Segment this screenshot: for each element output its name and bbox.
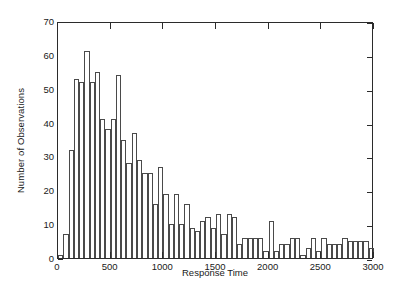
x-tick-mark-top: [373, 23, 374, 29]
x-tick-mark: [162, 252, 163, 258]
y-tick-label: 10: [32, 220, 54, 230]
x-tick-mark: [110, 252, 111, 258]
x-tick-mark-top: [320, 23, 321, 29]
x-tick-mark: [215, 252, 216, 258]
y-tick-label: 60: [32, 51, 54, 61]
x-tick-mark-top: [162, 23, 163, 29]
y-axis-label: Number of Observations: [14, 22, 28, 259]
y-tick-label: 50: [32, 85, 54, 95]
x-tick-mark: [320, 252, 321, 258]
x-tick-mark-top: [57, 23, 58, 29]
y-tick-label: 70: [32, 17, 54, 27]
x-tick-mark-top: [215, 23, 216, 29]
x-tick-mark: [57, 252, 58, 258]
x-axis-ticks: 050010001500200025003000: [57, 0, 373, 289]
x-tick-mark: [373, 252, 374, 258]
x-tick-mark-top: [268, 23, 269, 29]
x-tick-mark: [268, 252, 269, 258]
y-tick-label: 30: [32, 152, 54, 162]
y-tick-label: 20: [32, 186, 54, 196]
x-tick-mark-top: [110, 23, 111, 29]
x-axis-label: Response Time: [57, 267, 373, 279]
histogram-figure: Number of Observations 010203040506070 0…: [0, 0, 393, 289]
y-tick-label: 40: [32, 119, 54, 129]
y-axis-tick-labels: 010203040506070: [30, 0, 54, 289]
